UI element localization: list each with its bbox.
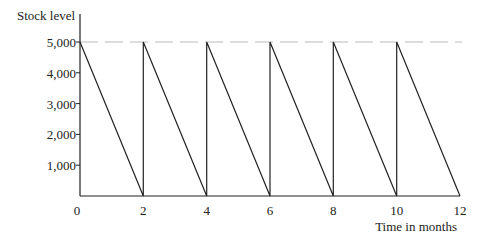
y-tick-label: 1,000: [47, 158, 76, 173]
stock-level-chart: 1,0002,0003,0004,0005,000024681012Stock …: [0, 0, 482, 243]
x-tick-label: 10: [390, 203, 403, 218]
x-tick-label: 8: [330, 203, 337, 218]
x-tick-label: 12: [454, 203, 467, 218]
x-tick-label: 6: [267, 203, 274, 218]
y-tick-label: 4,000: [47, 66, 76, 81]
x-axis-title: Time in months: [375, 219, 457, 234]
x-tick-label: 2: [140, 203, 147, 218]
y-axis-title: Stock level: [17, 8, 76, 23]
x-tick-label: 0: [74, 203, 81, 218]
stock-level-line: [80, 42, 460, 196]
y-tick-label: 3,000: [47, 97, 76, 112]
x-tick-label: 4: [203, 203, 210, 218]
y-tick-label: 5,000: [47, 35, 76, 50]
y-tick-label: 2,000: [47, 127, 76, 142]
